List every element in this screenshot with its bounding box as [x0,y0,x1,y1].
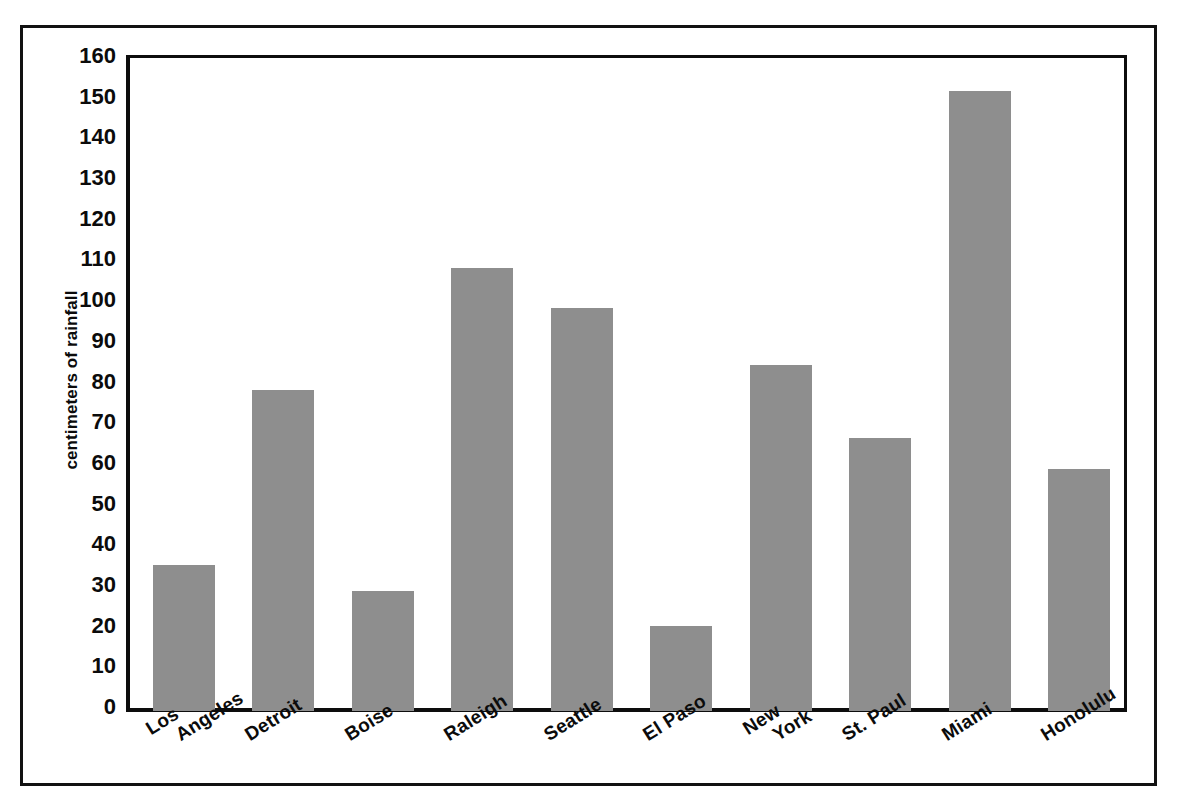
bar [949,91,1011,711]
y-tick-label: 150 [30,86,116,108]
bar [1048,469,1110,711]
y-tick-label: 80 [30,371,116,393]
bar [849,438,911,711]
y-tick-label: 40 [30,533,116,555]
y-tick-label: 110 [30,248,116,270]
bar [551,308,613,711]
y-tick-label: 90 [30,330,116,352]
plot-area [130,58,1125,711]
bar [451,268,513,711]
y-tick-label: 140 [30,126,116,148]
y-tick-label: 20 [30,615,116,637]
bar [252,390,314,711]
y-tick-label: 10 [30,655,116,677]
bar [750,365,812,711]
bar [352,591,414,711]
y-tick-label: 120 [30,208,116,230]
y-tick-label: 130 [30,167,116,189]
y-tick-label: 70 [30,411,116,433]
y-tick-label: 50 [30,493,116,515]
y-tick-label: 60 [30,452,116,474]
y-tick-label: 160 [30,45,116,67]
y-tick-label: 30 [30,574,116,596]
y-tick-label: 0 [30,696,116,718]
bar-chart: centimeters of rainfall 0102030405060708… [0,0,1179,808]
figure-container: centimeters of rainfall 0102030405060708… [0,0,1179,808]
y-tick-label: 100 [30,289,116,311]
